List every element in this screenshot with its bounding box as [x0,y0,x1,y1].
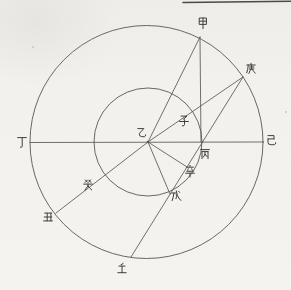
line-ray-yi-jia [148,37,200,142]
label-geng [247,63,255,73]
paper-speck [285,111,287,113]
label-wu [172,191,181,201]
label-xin [186,165,195,177]
scanned-diagram-page [0,0,291,290]
line-diameter-ding-ji [30,142,263,143]
label-chou [44,213,53,221]
label-ding [18,138,27,148]
line-ray-yi-chou [56,142,148,213]
paper-speck [32,46,34,48]
label-yi [138,129,146,137]
line-ray-yi-wu [148,142,170,194]
top-scan-rule [183,1,291,2]
label-ji [268,136,276,145]
label-bing [201,150,210,159]
line-ray-yi-geng [148,77,243,142]
label-jia [200,18,207,29]
line-vertical-jia-bing [200,37,201,142]
label-ren [118,263,126,272]
diagram-svg [0,0,291,290]
center-point-yi [147,141,150,144]
line-ray-yi-xin [148,142,187,167]
